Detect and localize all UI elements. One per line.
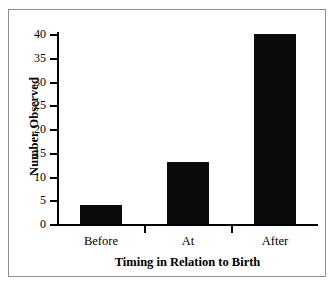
x-axis-line bbox=[57, 224, 318, 226]
bar-at bbox=[167, 162, 209, 224]
x-category-label-before: Before bbox=[71, 234, 131, 248]
bar-after bbox=[254, 34, 296, 224]
y-tick-mark-40 bbox=[50, 34, 57, 36]
y-tick-mark-5 bbox=[50, 200, 57, 202]
y-tick-mark-15 bbox=[50, 153, 57, 155]
bar-chart-plot-area: 0 5 10 15 20 25 30 35 40 Before At After… bbox=[0, 0, 334, 291]
y-axis-title: Number Observed bbox=[27, 32, 42, 222]
bar-before bbox=[80, 205, 122, 224]
x-axis-title: Timing in Relation to Birth bbox=[57, 255, 318, 270]
y-tick-mark-25 bbox=[50, 105, 57, 107]
y-axis-line bbox=[57, 32, 59, 226]
x-category-label-at: At bbox=[158, 234, 218, 248]
y-tick-mark-0 bbox=[50, 224, 57, 226]
x-tick-mark-1 bbox=[144, 226, 146, 233]
x-category-label-after: After bbox=[245, 234, 305, 248]
y-tick-mark-10 bbox=[50, 177, 57, 179]
x-tick-mark-2 bbox=[231, 226, 233, 233]
y-tick-mark-35 bbox=[50, 58, 57, 60]
y-tick-mark-20 bbox=[50, 129, 57, 131]
y-tick-mark-30 bbox=[50, 82, 57, 84]
